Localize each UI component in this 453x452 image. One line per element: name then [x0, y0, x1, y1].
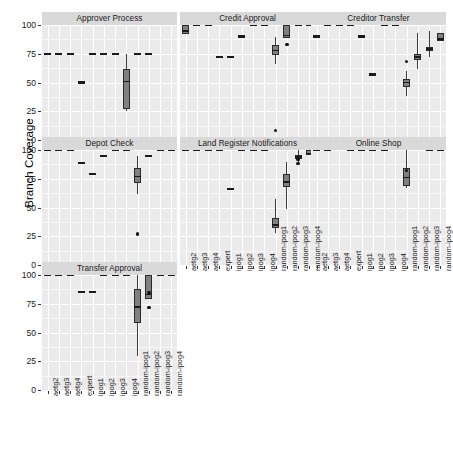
x-axis-tick-mark [93, 391, 94, 394]
x-axis-tick-mark [219, 266, 220, 269]
flat-median-marker [168, 150, 175, 151]
facet-strip-label: Land Register Notifications [180, 137, 315, 150]
flat-median-marker [168, 275, 175, 276]
y-axis-tick-mark [38, 111, 41, 112]
x-axis-tick-mark [384, 266, 385, 269]
x-axis-tick-mark [208, 266, 209, 269]
y-axis-tick-mark [38, 208, 41, 209]
x-axis-tick-mark [81, 391, 82, 394]
x-axis-tick-mark [149, 391, 150, 394]
boxplot-random-ipog2 [42, 25, 177, 140]
x-axis-tick-mark [242, 266, 243, 269]
y-axis-tick-mark [38, 179, 41, 180]
facet-creditor-transfer: Creditor Transfer [311, 12, 446, 140]
y-axis-tick-label: 50 [6, 328, 36, 338]
facet-strip-label: Online Shop [311, 137, 446, 150]
x-axis-tick-label: random-ipog4 [175, 351, 184, 396]
facet-approver-process: Approver Process [42, 12, 177, 140]
y-axis-tick-label: 25 [6, 231, 36, 241]
plot-panel [42, 150, 177, 265]
y-axis-tick-mark [38, 83, 41, 84]
x-axis-tick-label: random-ipog1 [141, 351, 150, 396]
y-axis-tick-mark [38, 25, 41, 26]
x-axis-tick-label: random-ipog3 [301, 226, 310, 271]
y-axis-tick-mark [38, 265, 41, 266]
plot-panel [42, 25, 177, 140]
x-axis-tick-label: random-ipog1 [279, 226, 288, 271]
y-axis-tick-mark [38, 333, 41, 334]
y-axis-tick-label: 25 [6, 106, 36, 116]
x-axis-tick-mark [126, 391, 127, 394]
boxplot-random-ipog4 [311, 25, 446, 140]
x-axis-tick-mark [264, 266, 265, 269]
x-axis-tick-mark [317, 266, 318, 269]
x-axis-tick-label: random-ipog3 [163, 351, 172, 396]
y-axis-tick-label: 100 [6, 270, 36, 280]
flat-median-marker [437, 150, 444, 151]
y-axis-tick-label: 50 [6, 78, 36, 88]
x-axis-tick-mark [70, 391, 71, 394]
y-axis-tick-label: 0 [6, 135, 36, 145]
x-axis-tick-mark [59, 391, 60, 394]
y-axis-tick-label: 25 [6, 356, 36, 366]
y-axis-tick-mark [38, 275, 41, 276]
plot-panel [180, 25, 315, 140]
x-axis-tick-mark [418, 266, 419, 269]
x-axis-tick-mark [253, 266, 254, 269]
y-axis-tick-mark [38, 236, 41, 237]
facet-credit-approval: Credit Approval [180, 12, 315, 140]
x-axis-tick-mark [328, 266, 329, 269]
x-axis-tick-mark [407, 266, 408, 269]
x-axis-tick-mark [309, 266, 310, 269]
x-axis-tick-label: random-ipog1 [410, 226, 419, 271]
x-axis-tick-mark [104, 391, 105, 394]
x-axis-tick-mark [138, 391, 139, 394]
plot-panel [311, 25, 446, 140]
x-axis-tick-label: random-ipog4 [444, 226, 453, 271]
facet-strip-label: Transfer Approval [42, 262, 177, 275]
y-axis-tick-mark [38, 361, 41, 362]
y-axis-tick-label: 75 [6, 174, 36, 184]
x-axis-tick-label: random-ipog2 [290, 226, 299, 271]
x-axis-tick-mark [298, 266, 299, 269]
x-axis-tick-label: random-ipog2 [152, 351, 161, 396]
x-axis-tick-mark [115, 391, 116, 394]
y-axis-tick-label: 50 [6, 203, 36, 213]
y-axis-tick-mark [38, 390, 41, 391]
boxplot-random-ipog4 [180, 25, 315, 140]
facet-strip-label: Approver Process [42, 12, 177, 25]
x-axis-tick-mark [395, 266, 396, 269]
y-axis-tick-label: 100 [6, 20, 36, 30]
x-axis-tick-mark [48, 391, 49, 394]
x-axis-tick-mark [440, 266, 441, 269]
y-axis-tick-mark [38, 54, 41, 55]
x-axis-tick-mark [231, 266, 232, 269]
x-axis-tick-mark [362, 266, 363, 269]
y-axis-tick-label: 75 [6, 299, 36, 309]
x-axis-tick-mark [186, 266, 187, 269]
y-axis-tick-label: 0 [6, 385, 36, 395]
x-axis-tick-mark [350, 266, 351, 269]
boxplot-random-ipog4 [42, 150, 177, 265]
x-axis-tick-label: random-ipog2 [421, 226, 430, 271]
y-axis-tick-label: 100 [6, 145, 36, 155]
facet-strip-label: Credit Approval [180, 12, 315, 25]
x-axis-tick-mark [171, 391, 172, 394]
facet-strip-label: Creditor Transfer [311, 12, 446, 25]
median-line [437, 38, 444, 40]
y-axis-tick-label: 0 [6, 260, 36, 270]
x-axis-tick-label: random-ipog3 [432, 226, 441, 271]
x-axis-tick-mark [276, 266, 277, 269]
facet-depot-check: Depot Check [42, 137, 177, 265]
x-axis-tick-mark [429, 266, 430, 269]
flat-median-marker [145, 53, 152, 55]
y-axis-tick-mark [38, 140, 41, 141]
y-axis-tick-label: 75 [6, 49, 36, 59]
x-axis-tick-mark [287, 266, 288, 269]
y-axis-tick-mark [38, 150, 41, 151]
y-axis-tick-mark [38, 304, 41, 305]
x-axis-tick-mark [160, 391, 161, 394]
x-axis-tick-mark [197, 266, 198, 269]
x-axis-tick-mark [339, 266, 340, 269]
